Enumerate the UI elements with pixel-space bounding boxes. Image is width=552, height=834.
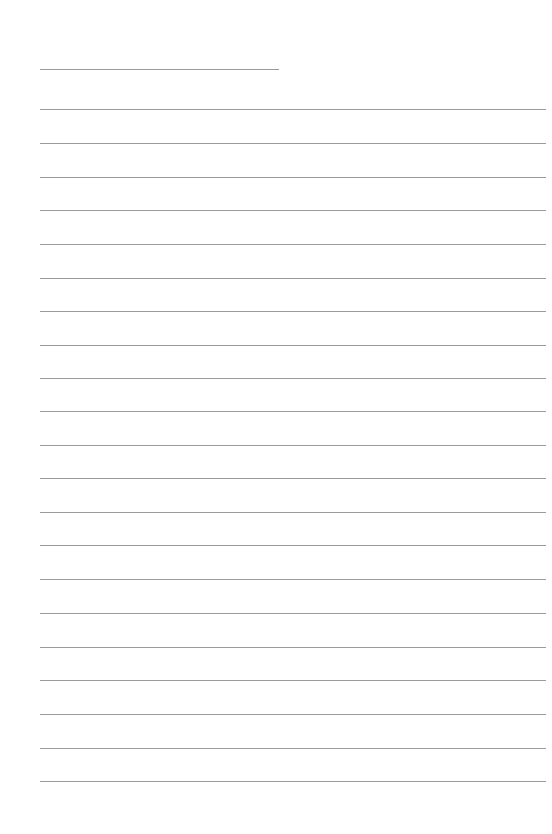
ruled-line: [40, 311, 546, 312]
title-line: [40, 69, 279, 70]
ruled-line: [40, 109, 546, 110]
ruled-line: [40, 680, 546, 681]
ruled-line: [40, 647, 546, 648]
ruled-line: [40, 714, 546, 715]
ruled-line: [40, 210, 546, 211]
ruled-line: [40, 378, 546, 379]
ruled-line: [40, 411, 546, 412]
ruled-line: [40, 579, 546, 580]
ruled-line: [40, 244, 546, 245]
ruled-line: [40, 781, 546, 782]
ruled-line: [40, 143, 546, 144]
ruled-line: [40, 445, 546, 446]
ruled-line: [40, 512, 546, 513]
ruled-line: [40, 177, 546, 178]
ruled-line: [40, 478, 546, 479]
ruled-line: [40, 748, 546, 749]
ruled-line: [40, 613, 546, 614]
ruled-line: [40, 345, 546, 346]
ruled-line: [40, 545, 546, 546]
ruled-line: [40, 278, 546, 279]
